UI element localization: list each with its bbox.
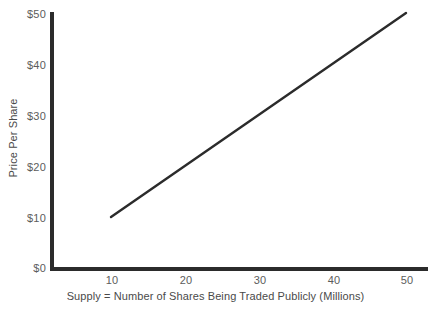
x-tick-label: 40 — [314, 275, 354, 286]
y-axis-title: Price Per Share — [7, 78, 19, 198]
supply-curve-chart: $50 $40 $30 $20 $10 $0 10 20 30 40 50 Su… — [0, 0, 431, 313]
x-tick-label: 20 — [166, 275, 206, 286]
x-tick-label: 30 — [240, 275, 280, 286]
plot-area — [0, 0, 431, 313]
x-axis-title: Supply = Number of Shares Being Traded P… — [0, 290, 431, 302]
x-tick-label: 10 — [92, 275, 132, 286]
x-tick-label: 50 — [387, 275, 427, 286]
supply-line — [111, 13, 406, 217]
